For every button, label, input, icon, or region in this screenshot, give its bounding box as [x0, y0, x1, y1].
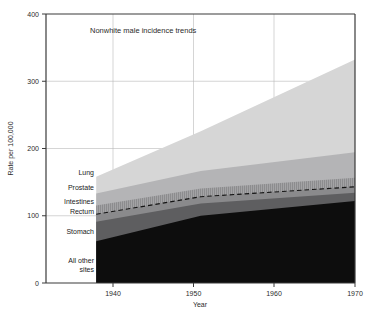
x-axis-title: Year [193, 301, 208, 308]
series-label-prostate: Prostate [68, 184, 94, 191]
ytick-label-0: 0 [35, 280, 39, 287]
ytick-label-200: 200 [27, 145, 39, 152]
xtick-label-1950: 1950 [186, 290, 202, 297]
ytick-label-100: 100 [27, 212, 39, 219]
xtick-label-1940: 1940 [105, 290, 121, 297]
series-label-all-other-sites-line2: sites [80, 266, 95, 273]
series-label-all-other-sites-line1: All other [68, 257, 94, 264]
series-label-stomach: Stomach [66, 228, 94, 235]
chart-title: Nonwhite male incidence trends [90, 26, 197, 35]
series-label-intestines: Intestines [64, 198, 94, 205]
ytick-label-400: 400 [27, 11, 39, 18]
chart-svg: 0 100 200 300 400 1940 1950 1960 1970 Ye… [0, 0, 375, 309]
xtick-label-1960: 1960 [266, 290, 282, 297]
ytick-label-300: 300 [27, 78, 39, 85]
y-axis-title: Rate per 100,000 [7, 121, 15, 175]
chart-figure: 0 100 200 300 400 1940 1950 1960 1970 Ye… [0, 0, 375, 309]
xtick-label-1970: 1970 [347, 290, 363, 297]
series-label-rectum: Rectum [70, 208, 94, 215]
series-label-lung: Lung [78, 169, 94, 177]
